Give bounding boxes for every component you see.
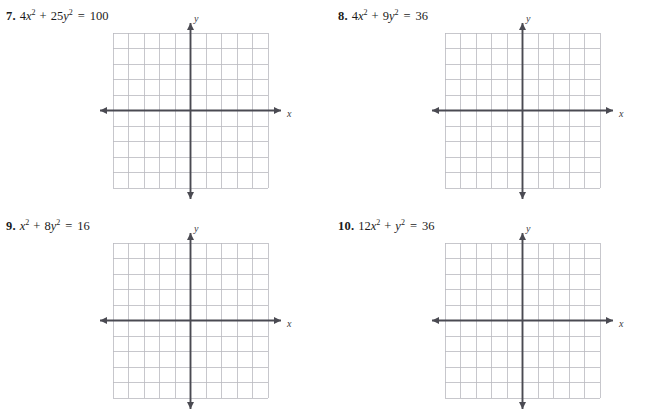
y-axis-label: y bbox=[194, 223, 198, 234]
equation-expression: 4x2+9y2=36 bbox=[352, 9, 428, 23]
equation-operator: + bbox=[29, 219, 44, 233]
y-axis-label: y bbox=[194, 13, 198, 24]
y-axis-arrow-down bbox=[519, 192, 526, 199]
equation-operator: + bbox=[36, 9, 51, 23]
x-axis-arrow-left bbox=[100, 107, 107, 114]
y-axis-arrow-down bbox=[187, 192, 194, 199]
x-axis-arrow-right bbox=[274, 317, 281, 324]
problem-item: 7.4x2+25y2=100 bbox=[0, 0, 331, 209]
problem-equation: 9.x2+8y2=16 bbox=[6, 219, 90, 233]
coordinate-grid-svg bbox=[425, 14, 635, 204]
problem-number: 10. bbox=[338, 219, 354, 233]
y-axis-label: y bbox=[526, 13, 530, 24]
x-axis-arrow-right bbox=[606, 317, 613, 324]
equals-sign: = bbox=[73, 9, 90, 23]
problem-item: 9.x2+8y2=16 bbox=[0, 210, 331, 419]
y-axis-arrow-down bbox=[187, 402, 194, 409]
term-exponent: 2 bbox=[32, 8, 36, 17]
y-axis-arrow-up bbox=[187, 23, 194, 30]
coordinate-grid-svg bbox=[93, 224, 303, 414]
x-axis-label: x bbox=[619, 108, 623, 119]
problem-equation: 10.12x2+y2=36 bbox=[338, 219, 434, 233]
x-axis-arrow-left bbox=[432, 107, 439, 114]
x-axis-label: x bbox=[287, 108, 291, 119]
x-axis-arrow-left bbox=[432, 317, 439, 324]
equation-expression: x2+8y2=16 bbox=[20, 219, 90, 233]
y-axis-arrow-up bbox=[187, 233, 194, 240]
coordinate-grid-svg bbox=[93, 14, 303, 204]
coordinate-grid: x y bbox=[93, 14, 303, 204]
problem-item: 8.4x2+9y2=36 bbox=[332, 0, 663, 209]
x-axis-arrow-right bbox=[606, 107, 613, 114]
problem-equation: 8.4x2+9y2=36 bbox=[338, 9, 428, 23]
equals-sign: = bbox=[60, 219, 77, 233]
y-axis-arrow-up bbox=[519, 23, 526, 30]
coordinate-grid-svg bbox=[425, 224, 635, 414]
problem-item: 10.12x2+y2=36 bbox=[332, 210, 663, 419]
equation-rhs: 16 bbox=[77, 219, 90, 233]
x-axis-arrow-right bbox=[274, 107, 281, 114]
problem-number: 8. bbox=[338, 9, 348, 23]
problem-number: 9. bbox=[6, 219, 16, 233]
problem-number: 7. bbox=[6, 9, 16, 23]
y-axis-label: y bbox=[526, 223, 530, 234]
term-coefficient: 12 bbox=[358, 219, 371, 233]
equals-sign: = bbox=[405, 219, 422, 233]
term-coefficient: 25 bbox=[51, 9, 64, 23]
coordinate-grid: x y bbox=[93, 224, 303, 414]
equals-sign: = bbox=[398, 9, 415, 23]
equation-operator: + bbox=[368, 9, 383, 23]
coordinate-grid: x y bbox=[425, 224, 635, 414]
equation-operator: + bbox=[380, 219, 395, 233]
y-axis-arrow-down bbox=[519, 402, 526, 409]
equation-expression: 12x2+y2=36 bbox=[358, 219, 434, 233]
x-axis-label: x bbox=[619, 318, 623, 329]
coordinate-grid: x y bbox=[425, 14, 635, 204]
x-axis-arrow-left bbox=[100, 317, 107, 324]
y-axis-arrow-up bbox=[519, 233, 526, 240]
x-axis-label: x bbox=[287, 318, 291, 329]
term-exponent: 2 bbox=[364, 8, 368, 17]
